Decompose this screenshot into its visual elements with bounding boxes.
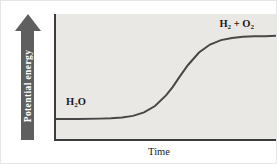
reactant-label: H2O [66, 96, 86, 109]
potential-energy-diagram: Potential energy H2O H2 + O2 Time [0, 0, 277, 164]
label-part: H [219, 18, 227, 29]
arrow-shaft: Potential energy [21, 31, 34, 140]
label-part: + O [231, 18, 250, 29]
energy-curve-svg [56, 14, 276, 139]
plot-area: H2O H2 + O2 [54, 14, 276, 141]
y-axis-label: Potential energy [23, 49, 33, 122]
x-axis-label: Time [54, 146, 264, 157]
arrow-up-icon [15, 14, 41, 31]
potential-energy-arrow: Potential energy [14, 14, 41, 140]
label-part: O [78, 96, 86, 107]
label-part: H [66, 96, 74, 107]
product-label: H2 + O2 [219, 18, 254, 31]
label-part: 2 [251, 23, 255, 31]
energy-curve [56, 36, 276, 119]
